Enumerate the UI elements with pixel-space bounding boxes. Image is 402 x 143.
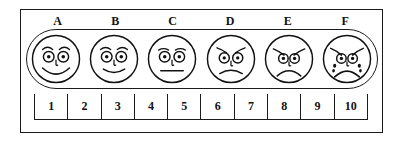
number-cell-8[interactable]: 8 — [267, 94, 300, 119]
number-cell-10[interactable]: 10 — [334, 94, 368, 119]
faces-pain-rating-scale: A B C D E F — [0, 0, 402, 143]
face-option-a[interactable] — [27, 29, 85, 89]
number-cell-3[interactable]: 3 — [101, 94, 134, 119]
number-label-4: 4 — [148, 100, 154, 113]
number-cell-5[interactable]: 5 — [167, 94, 200, 119]
face-neutral-icon — [144, 31, 200, 87]
face-option-e[interactable] — [260, 29, 318, 89]
number-label-1: 1 — [48, 100, 54, 113]
figure-title: Faces Pain Rating Scale — [0, 0, 1, 1]
number-label-3: 3 — [115, 100, 121, 113]
number-cell-6[interactable]: 6 — [200, 94, 233, 119]
face-frown-icon — [261, 31, 317, 87]
face-letter-label-f: F — [317, 13, 375, 29]
number-scale-track: 1 2 3 4 5 6 7 8 9 10 — [34, 94, 368, 120]
face-letter-label-e: E — [259, 13, 317, 29]
face-crying-icon — [319, 31, 375, 87]
number-label-9: 9 — [315, 100, 321, 113]
face-letter-label-d: D — [202, 13, 260, 29]
face-big-smile-icon — [28, 31, 84, 87]
face-letter-label-a: A — [29, 13, 87, 29]
face-letter-label-row: A B C D E F — [20, 13, 383, 29]
face-letter-label-b: B — [87, 13, 145, 29]
face-slight-frown-icon — [203, 31, 259, 87]
face-option-f[interactable] — [318, 29, 376, 89]
number-scale: 1 2 3 4 5 6 7 8 9 10 — [34, 94, 368, 120]
number-label-6: 6 — [215, 100, 221, 113]
number-label-8: 8 — [281, 100, 287, 113]
face-letter-label-c: C — [144, 13, 202, 29]
number-cell-2[interactable]: 2 — [67, 94, 100, 119]
faces-row — [20, 29, 383, 89]
number-label-10: 10 — [345, 100, 357, 113]
number-label-7: 7 — [248, 100, 254, 113]
number-cell-9[interactable]: 9 — [300, 94, 333, 119]
number-label-5: 5 — [181, 100, 187, 113]
face-slight-smile-icon — [86, 31, 142, 87]
face-option-b[interactable] — [85, 29, 143, 89]
number-cell-4[interactable]: 4 — [134, 94, 167, 119]
face-option-c[interactable] — [143, 29, 201, 89]
face-option-d[interactable] — [202, 29, 260, 89]
number-label-2: 2 — [81, 100, 87, 113]
number-cell-1[interactable]: 1 — [34, 94, 67, 119]
number-cell-7[interactable]: 7 — [234, 94, 267, 119]
